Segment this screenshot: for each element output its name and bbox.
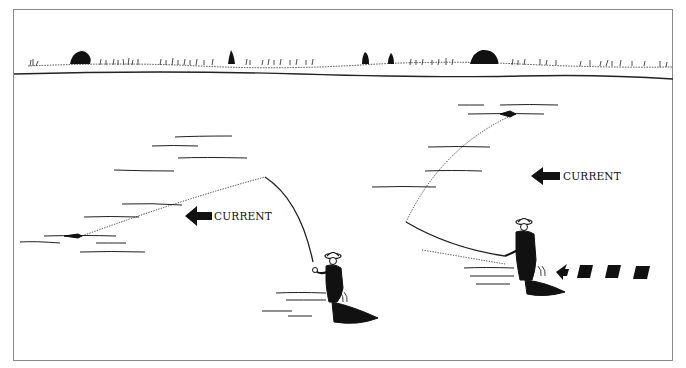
left-fly-line bbox=[64, 177, 313, 262]
bush-icon bbox=[70, 51, 91, 64]
arrow-left-icon bbox=[185, 206, 212, 226]
water-ripples-left bbox=[20, 136, 247, 252]
dashed-arrow-left-icon bbox=[556, 264, 650, 280]
angler-left bbox=[313, 253, 379, 324]
bush-icon bbox=[470, 50, 498, 64]
bush-icon bbox=[228, 50, 235, 64]
fly-lure-icon bbox=[500, 111, 516, 117]
angler-left-ripples bbox=[262, 293, 326, 317]
current-label-left: CURRENT bbox=[214, 211, 272, 222]
angler-right-ripples bbox=[464, 268, 514, 285]
river-scene bbox=[0, 0, 686, 368]
right-fly-line bbox=[406, 111, 516, 264]
water-ripples-right bbox=[372, 105, 558, 188]
current-label-right: CURRENT bbox=[563, 171, 621, 182]
fly-lure-icon bbox=[64, 234, 82, 238]
bush-icon bbox=[362, 52, 369, 64]
bush-icon bbox=[388, 53, 394, 64]
far-bank bbox=[14, 50, 673, 79]
angler-right bbox=[505, 219, 565, 296]
arrow-left-icon bbox=[531, 167, 560, 185]
